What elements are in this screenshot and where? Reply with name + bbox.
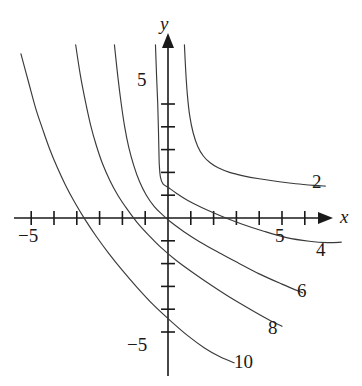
figure-page: { "chart_data": { "type": "line", "title… bbox=[0, 0, 362, 386]
y-tick-label-neg5: −5 bbox=[127, 335, 147, 354]
y-axis-arrowhead bbox=[162, 33, 174, 48]
curve-label-2: 2 bbox=[312, 172, 322, 191]
x-tick-label-5: 5 bbox=[275, 226, 285, 245]
y-tick-label-5: 5 bbox=[137, 70, 147, 89]
curve-label-8: 8 bbox=[268, 318, 278, 337]
curves-group bbox=[21, 45, 341, 363]
curve-label-4: 4 bbox=[316, 240, 326, 259]
x-axis-arrowhead bbox=[318, 212, 333, 224]
x-tick-label-neg5: −5 bbox=[18, 226, 38, 245]
x-axis-label: x bbox=[340, 207, 348, 226]
curve-8 bbox=[76, 45, 282, 327]
axes-group bbox=[14, 33, 333, 376]
curve-4 bbox=[155, 45, 341, 243]
curve-label-10: 10 bbox=[234, 352, 253, 371]
curve-label-6: 6 bbox=[297, 281, 307, 300]
coordinate-plane-figure bbox=[0, 0, 362, 386]
y-axis-label: y bbox=[160, 14, 168, 33]
curve-2 bbox=[184, 45, 325, 186]
